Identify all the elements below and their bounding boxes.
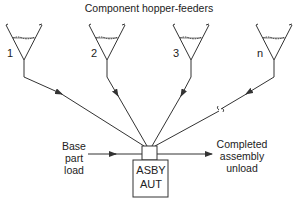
- station-label: ASBY AUT: [133, 163, 169, 191]
- completed-assembly-unload-label: Completed assembly unload: [212, 138, 272, 174]
- feed-lines: [24, 77, 274, 146]
- hopper-label-n: n: [257, 47, 263, 59]
- hopper-label-3: 3: [173, 47, 179, 59]
- workhead-box: [142, 146, 157, 160]
- hopper-label-2: 2: [91, 47, 97, 59]
- diagram-title: Component hopper-feeders: [0, 2, 298, 14]
- base-part-load-label: Base part load: [56, 140, 92, 176]
- hopper-label-1: 1: [7, 47, 13, 59]
